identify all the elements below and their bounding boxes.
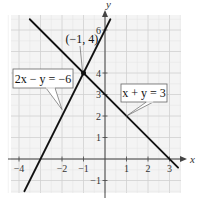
y-axis-label: y [105,0,111,10]
intersection-point [81,71,86,76]
x-axis-arrow [180,156,187,162]
x-tick-label: 1 [124,163,129,174]
callout-line1-text: 2x − y = −6 [15,72,71,86]
y-tick-label: 1 [96,132,101,143]
y-tick-label: −1 [90,175,101,186]
y-axis-arrow [102,10,108,17]
x-tick-label: −4 [14,163,25,174]
x-tick-label: 3 [167,163,172,174]
x-tick-label: 2 [146,163,151,174]
x-tick-label: −1 [78,163,89,174]
x-axis-label: x [189,153,195,165]
y-tick-label: 2 [96,111,101,122]
x-tick-label: −2 [57,163,68,174]
y-tick-label: 4 [96,68,101,79]
intersection-label: (−1, 4) [66,32,99,46]
callout-line2-text: x + y = 3 [122,86,166,100]
chart: xy −4−2−1123−112346 2x − y = −6x + y = 3… [0,0,203,207]
